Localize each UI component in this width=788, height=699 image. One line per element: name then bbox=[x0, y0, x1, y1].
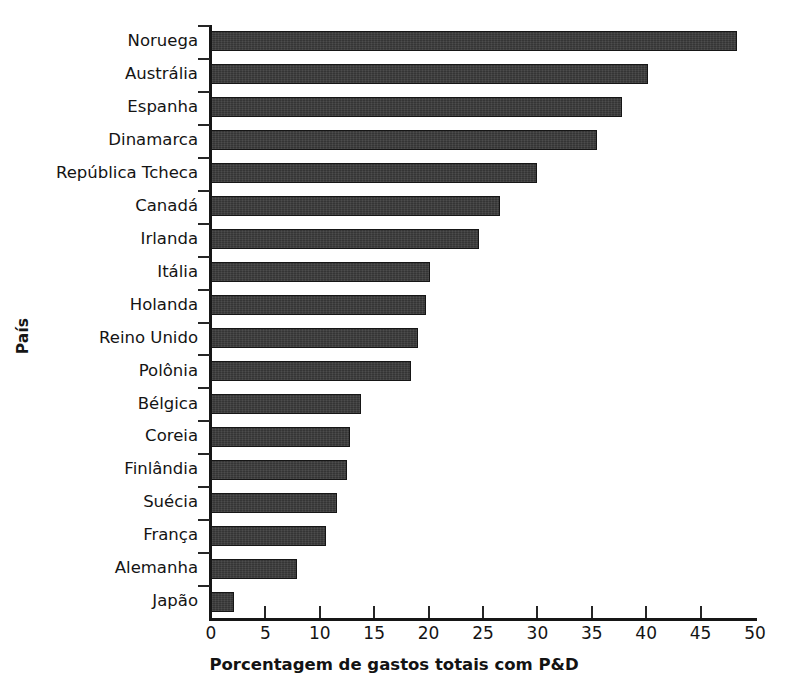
y-axis-tick-label: Dinamarca bbox=[40, 124, 206, 157]
bar bbox=[211, 295, 426, 315]
y-axis-tick bbox=[198, 58, 210, 60]
x-axis-tick-label: 0 bbox=[206, 623, 217, 643]
x-axis-tick bbox=[645, 606, 647, 618]
y-axis-tick bbox=[198, 124, 210, 126]
bar-chart: País NoruegaAustráliaEspanhaDinamarcaRep… bbox=[0, 0, 788, 699]
bar bbox=[211, 130, 597, 150]
y-axis-tick bbox=[198, 256, 210, 258]
y-axis-tick-label: Irlanda bbox=[40, 223, 206, 256]
bar-row bbox=[211, 361, 755, 381]
bar-row bbox=[211, 229, 755, 249]
x-axis-tick bbox=[373, 606, 375, 618]
x-axis-tick bbox=[319, 606, 321, 618]
y-axis-tick bbox=[198, 453, 210, 455]
y-axis-tick bbox=[198, 91, 210, 93]
bar bbox=[211, 394, 361, 414]
y-axis-tick bbox=[198, 354, 210, 356]
x-axis-tick bbox=[428, 606, 430, 618]
bar bbox=[211, 97, 622, 117]
y-axis-tick-label: Suécia bbox=[40, 486, 206, 519]
y-axis-tick-label: Canadá bbox=[40, 190, 206, 223]
x-axis-tick bbox=[700, 606, 702, 618]
y-axis-tick-label: Austrália bbox=[40, 58, 206, 91]
y-axis-tick bbox=[198, 190, 210, 192]
bar-row bbox=[211, 559, 755, 579]
bar bbox=[211, 460, 347, 480]
y-axis-tick-label: Bélgica bbox=[40, 387, 206, 420]
x-axis-tick-labels: 05101520253035404550 bbox=[211, 618, 755, 658]
y-axis-tick-label: Japão bbox=[40, 585, 206, 618]
y-axis-tick bbox=[198, 322, 210, 324]
y-axis-tick-label: França bbox=[40, 519, 206, 552]
bar bbox=[211, 493, 337, 513]
x-axis-tick-label: 40 bbox=[635, 623, 657, 643]
bar-row bbox=[211, 130, 755, 150]
x-axis-tick-label: 25 bbox=[472, 623, 494, 643]
y-axis-tick bbox=[198, 486, 210, 488]
bar-row bbox=[211, 394, 755, 414]
bar-row bbox=[211, 493, 755, 513]
bar-row bbox=[211, 97, 755, 117]
x-axis-tick-label: 15 bbox=[363, 623, 385, 643]
y-axis-tick-label: Alemanha bbox=[40, 552, 206, 585]
bar-row bbox=[211, 163, 755, 183]
x-axis-tick bbox=[264, 606, 266, 618]
y-axis-tick-label: Polônia bbox=[40, 354, 206, 387]
y-axis-tick-label: Holanda bbox=[40, 289, 206, 322]
y-axis-tick-label: Coreia bbox=[40, 420, 206, 453]
bar bbox=[211, 163, 537, 183]
x-axis-tick-label: 5 bbox=[260, 623, 271, 643]
x-axis-title: Porcentagem de gastos totais com P&D bbox=[0, 655, 788, 674]
bar bbox=[211, 262, 430, 282]
x-axis-tick bbox=[591, 606, 593, 618]
x-axis-tick-label: 30 bbox=[527, 623, 549, 643]
y-axis-title: País bbox=[6, 276, 40, 396]
bar bbox=[211, 427, 350, 447]
bar bbox=[211, 559, 297, 579]
x-axis-tick-label: 20 bbox=[418, 623, 440, 643]
x-axis-tick bbox=[536, 606, 538, 618]
bar-row bbox=[211, 328, 755, 348]
bar-row bbox=[211, 31, 755, 51]
bar bbox=[211, 31, 737, 51]
bar-row bbox=[211, 460, 755, 480]
y-axis-title-text: País bbox=[14, 318, 32, 354]
y-axis-tick-label: República Tcheca bbox=[40, 157, 206, 190]
bar-row bbox=[211, 427, 755, 447]
bar-row bbox=[211, 64, 755, 84]
y-axis-tick bbox=[198, 223, 210, 225]
y-axis-tick-label: Noruega bbox=[40, 25, 206, 58]
bar-row bbox=[211, 526, 755, 546]
x-axis-tick bbox=[482, 606, 484, 618]
y-axis-tick-labels: NoruegaAustráliaEspanhaDinamarcaRepúblic… bbox=[40, 25, 206, 618]
y-axis-tick bbox=[198, 157, 210, 159]
x-axis-tick-label: 45 bbox=[690, 623, 712, 643]
bar bbox=[211, 64, 648, 84]
bar bbox=[211, 526, 326, 546]
y-axis-tick-label: Reino Unido bbox=[40, 321, 206, 354]
bar-row bbox=[211, 262, 755, 282]
bar bbox=[211, 592, 234, 612]
y-axis-tick bbox=[198, 585, 210, 587]
y-axis-tick bbox=[198, 289, 210, 291]
bar bbox=[211, 229, 479, 249]
y-axis-tick-label: Itália bbox=[40, 256, 206, 289]
bar-row bbox=[211, 196, 755, 216]
y-axis-tick-label: Finlândia bbox=[40, 453, 206, 486]
x-axis-tick-label: 10 bbox=[309, 623, 331, 643]
plot-area bbox=[211, 25, 755, 618]
bar-row bbox=[211, 295, 755, 315]
y-axis-tick bbox=[198, 25, 210, 27]
y-axis-tick bbox=[198, 387, 210, 389]
x-axis-tick-label: 50 bbox=[744, 623, 766, 643]
y-axis-tick-label: Espanha bbox=[40, 91, 206, 124]
bar bbox=[211, 361, 411, 381]
x-axis-tick-label: 35 bbox=[581, 623, 603, 643]
y-axis-tick bbox=[198, 420, 210, 422]
y-axis-tick bbox=[198, 552, 210, 554]
y-axis-tick bbox=[198, 519, 210, 521]
bar bbox=[211, 328, 418, 348]
bar bbox=[211, 196, 500, 216]
